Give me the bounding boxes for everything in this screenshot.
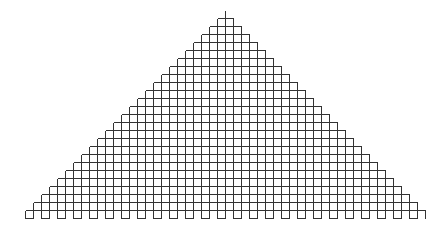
grid-lines [26,11,426,219]
triangle-grid-diagram [0,0,448,225]
